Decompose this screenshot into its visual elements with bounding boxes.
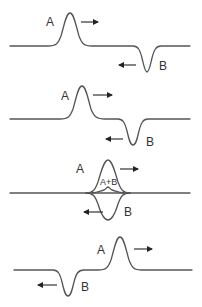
pulse-b-label: B — [124, 205, 132, 219]
panel-4: A B — [14, 237, 192, 296]
panel-1: A B — [10, 13, 190, 73]
pulse-b-label: B — [81, 280, 89, 294]
pulse-b-label: B — [146, 135, 154, 149]
sum-curve — [92, 187, 124, 193]
pulse-b-label: B — [159, 59, 167, 73]
pulse-a-label: A — [76, 162, 84, 176]
panel-3: A A+B B — [10, 160, 190, 220]
pulse-a-label: A — [46, 15, 54, 29]
pulse-a-label: A — [61, 89, 69, 103]
panel-2: A B — [10, 86, 190, 149]
sum-label: A+B — [100, 177, 117, 187]
pulse-a-label: A — [97, 243, 105, 257]
wave-superposition-diagram: A B A B A A+B B A B — [0, 0, 202, 307]
